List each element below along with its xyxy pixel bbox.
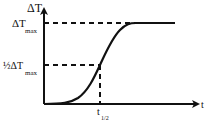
half-max-label-sub: max: [25, 69, 38, 77]
y-axis-label: ΔT: [27, 1, 43, 15]
t-half-label: t: [97, 106, 100, 117]
temperature-rise-diagram: ΔT t ΔT max ½ΔT max t 1/2: [0, 0, 206, 121]
sigmoid-curve: [44, 23, 175, 104]
max-label: ΔT: [12, 17, 26, 29]
half-max-label: ½ΔT: [3, 60, 23, 71]
x-axis-label: t: [201, 99, 204, 110]
t-half-label-sub: 1/2: [101, 115, 109, 121]
max-label-sub: max: [25, 27, 38, 35]
